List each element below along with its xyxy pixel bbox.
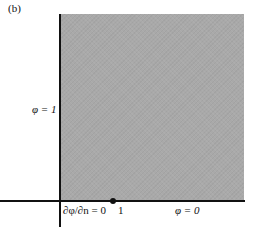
panel-label: (b) bbox=[8, 2, 21, 14]
vertical-axis bbox=[59, 14, 61, 227]
left-boundary-condition-label: φ = 1 bbox=[32, 103, 57, 115]
dirichlet-condition-label: φ = 0 bbox=[175, 204, 200, 216]
point-label: 1 bbox=[118, 204, 124, 216]
neumann-condition-label: ∂φ/∂n = 0 bbox=[63, 204, 106, 216]
shaded-domain bbox=[61, 14, 244, 200]
boundary-point-marker bbox=[110, 198, 116, 204]
horizontal-axis bbox=[0, 200, 245, 202]
